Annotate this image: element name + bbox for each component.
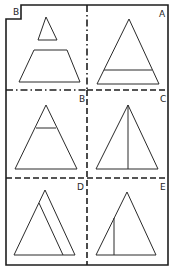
option-b-label: B bbox=[79, 94, 85, 104]
option-a-label: A bbox=[159, 9, 166, 19]
option-d[interactable]: D bbox=[14, 182, 84, 255]
triangle bbox=[15, 105, 77, 169]
puzzle-svg: B A B C D E bbox=[0, 0, 174, 270]
trapezoid bbox=[19, 50, 80, 82]
small-triangle bbox=[38, 17, 57, 40]
option-e-label: E bbox=[160, 182, 166, 192]
option-c-label: C bbox=[160, 94, 166, 104]
triangle bbox=[96, 192, 156, 255]
triangle bbox=[96, 105, 158, 169]
option-c[interactable]: C bbox=[96, 94, 166, 169]
option-e[interactable]: E bbox=[96, 182, 166, 255]
option-d-label: D bbox=[77, 182, 84, 192]
inner-triangle-edge bbox=[39, 203, 63, 255]
option-b[interactable]: B bbox=[15, 94, 85, 169]
corner-label: B bbox=[13, 7, 19, 17]
triangle bbox=[97, 19, 159, 84]
option-a[interactable]: A bbox=[97, 9, 166, 84]
reference-panel bbox=[19, 17, 80, 82]
outer-triangle bbox=[14, 190, 75, 255]
